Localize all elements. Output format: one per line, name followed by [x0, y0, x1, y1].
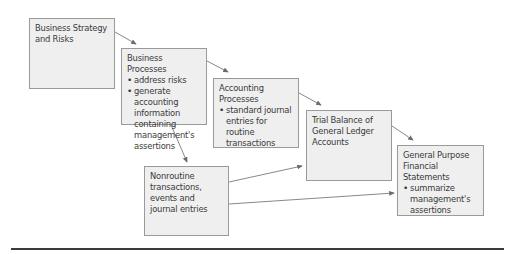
bottom-rule — [11, 248, 504, 250]
bullet-item: standard journal entries for routine tra… — [219, 105, 293, 149]
bullet-list: standard journal entries for routine tra… — [219, 105, 293, 149]
node-business-processes: Business Processes address risks generat… — [121, 48, 207, 125]
bullet-item: summarize management's assertions — [403, 183, 478, 216]
arrow-business-to-accounting — [207, 61, 228, 72]
node-title: Accounting Processes — [219, 83, 293, 105]
node-financial-statements: General Purpose Financial Statements sum… — [397, 145, 484, 216]
node-nonroutine-transactions: Nonroutine transactions, events and jour… — [144, 166, 229, 236]
arrow-trial-to-statements — [392, 126, 413, 140]
node-title: Nonroutine transactions, events and jour… — [150, 171, 223, 215]
arrow-nonroutine-to-trial — [229, 166, 302, 182]
arrow-accounting-to-trial — [299, 93, 321, 105]
node-trial-balance: Trial Balance of General Ledger Accounts — [306, 110, 392, 181]
arrow-nonroutine-to-statements — [229, 193, 394, 204]
arrow-strategy-to-business — [115, 32, 136, 44]
node-title: General Purpose Financial Statements — [403, 150, 478, 183]
node-title: Business Strategy and Risks — [35, 23, 109, 45]
bullet-list: summarize management's assertions — [403, 183, 478, 216]
bullet-list: address risks generate accounting inform… — [127, 75, 201, 152]
bullet-item: address risks — [127, 75, 201, 86]
node-title: Business Processes — [127, 53, 201, 75]
bullet-item: generate accounting information containi… — [127, 86, 201, 152]
node-accounting-processes: Accounting Processes standard journal en… — [213, 78, 299, 148]
node-title: Trial Balance of General Ledger Accounts — [312, 115, 386, 148]
node-business-strategy: Business Strategy and Risks — [29, 18, 115, 89]
